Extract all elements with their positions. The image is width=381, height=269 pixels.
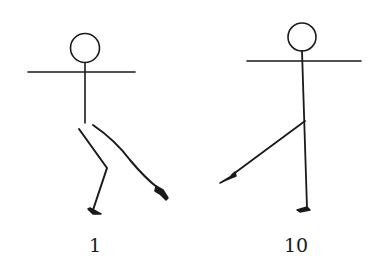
stick-figure-1	[28, 34, 168, 215]
figure-label-10: 10	[284, 234, 308, 256]
stick-figure-10	[220, 23, 361, 212]
head	[71, 34, 100, 63]
standing-foot	[297, 207, 310, 212]
lifted-leg	[232, 121, 305, 175]
figure-label-1: 1	[89, 234, 101, 256]
standing-foot	[88, 208, 101, 214]
head	[288, 23, 316, 51]
diagram-canvas	[0, 0, 381, 269]
torso-and-standing-leg	[302, 51, 307, 208]
lifted-foot	[220, 172, 236, 183]
extended-foot	[155, 186, 168, 200]
standing-leg	[79, 129, 107, 210]
